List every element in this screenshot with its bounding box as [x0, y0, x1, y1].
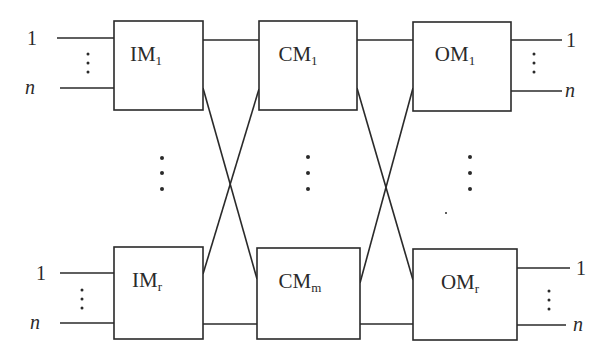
input-stage-ellipsis-icon: [160, 156, 164, 191]
output-label-n: n: [565, 79, 575, 101]
module-cm1: CM1: [259, 21, 357, 110]
vertical-ellipsis-icon: [548, 290, 551, 311]
center-stage-ellipsis-icon: [306, 155, 310, 191]
module-subscript: 1: [469, 53, 476, 68]
output-stage-ellipsis-icon: [468, 155, 472, 191]
output-label-1: 1: [566, 29, 576, 51]
vertical-ellipsis-icon: [87, 53, 90, 74]
speck: [445, 212, 447, 214]
module-label: IM: [130, 42, 156, 66]
module-subscript: m: [311, 280, 321, 295]
omr-outputs: 1 n: [517, 257, 586, 335]
vertical-ellipsis-icon: [81, 289, 84, 310]
module-label: IM: [132, 268, 158, 292]
module-label: OM: [435, 42, 469, 66]
imr-inputs: 1 n: [30, 262, 114, 333]
clos-network-diagram: 1 n 1 n 1 n: [0, 0, 611, 364]
module-omr: OMr: [413, 249, 517, 340]
module-cmm: CMm: [257, 248, 360, 339]
module-subscript: r: [475, 281, 480, 296]
module-label: OM: [441, 270, 475, 294]
input-label-1: 1: [27, 27, 37, 49]
module-om1: OM1: [413, 22, 511, 111]
module-im1: IM1: [114, 21, 203, 110]
module-label: CM: [279, 269, 312, 293]
module-imr: IMr: [114, 247, 203, 339]
module-subscript: 1: [156, 53, 163, 68]
input-label-n: n: [25, 76, 35, 98]
module-subscript: r: [158, 279, 163, 294]
input-label-n: n: [30, 311, 40, 333]
module-subscript: 1: [311, 53, 318, 68]
svg-text:OMr: OMr: [441, 270, 480, 296]
input-label-1: 1: [36, 262, 46, 284]
vertical-ellipsis-icon: [533, 53, 536, 74]
output-label-1: 1: [576, 257, 586, 279]
im1-inputs: 1 n: [25, 27, 114, 98]
module-label: CM: [278, 42, 311, 66]
om1-outputs: 1 n: [511, 29, 576, 101]
output-label-n: n: [573, 313, 583, 335]
